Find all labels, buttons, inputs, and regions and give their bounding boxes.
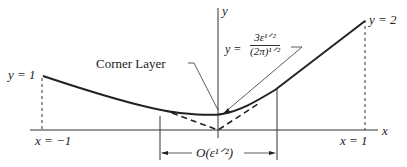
y-axis-label: y bbox=[222, 4, 228, 17]
solution-curve bbox=[43, 21, 365, 115]
corner-layer-label: Corner Layer bbox=[96, 57, 166, 70]
min-value-numerator: 3ε¹ᐟ² bbox=[250, 32, 280, 46]
right-boundary-x: x = 1 bbox=[340, 134, 368, 147]
width-arrowhead-left bbox=[161, 151, 168, 155]
outer-solution-dashed bbox=[172, 104, 258, 130]
corner-layer-leader-diag bbox=[194, 63, 218, 110]
left-boundary-x: x = −1 bbox=[35, 134, 71, 147]
layer-width-label: O(ε¹ᐟ²) bbox=[196, 146, 233, 159]
width-arrowhead-right bbox=[269, 151, 276, 155]
min-value-prefix: y = bbox=[225, 43, 241, 55]
min-value-fraction: 3ε¹ᐟ² (2π)¹ᐟ² bbox=[250, 32, 280, 57]
x-axis-label: x bbox=[382, 124, 388, 137]
right-boundary-value: y = 2 bbox=[369, 13, 397, 26]
min-value-denominator: (2π)¹ᐟ² bbox=[250, 46, 280, 58]
left-boundary-value: y = 1 bbox=[8, 68, 36, 81]
